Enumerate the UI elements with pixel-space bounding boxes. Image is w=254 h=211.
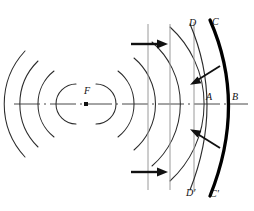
curved-mirror-arc [210,20,229,196]
arrow-bottom-head [157,167,168,176]
label-point-d: D [189,18,196,28]
focus-point-marker [84,102,88,106]
label-point-b: B [232,92,238,102]
right-wavefront-arcs [96,27,204,181]
diag-arrow-bottom-shaft [196,133,220,148]
label-point-d-prime: D' [186,188,195,198]
label-point-c-prime: C' [210,189,219,199]
label-focus: F [84,86,90,96]
incident-ray-arrow-top [131,39,168,48]
mirror-path-CC-prime [210,20,229,196]
optics-wavefront-figure: F A B D C D' C' [0,0,254,211]
label-point-c: C [212,17,219,27]
label-point-a: A [206,92,212,102]
arrow-top-head [157,39,168,48]
figure-canvas [0,0,254,211]
incident-ray-arrow-bottom [131,167,168,176]
